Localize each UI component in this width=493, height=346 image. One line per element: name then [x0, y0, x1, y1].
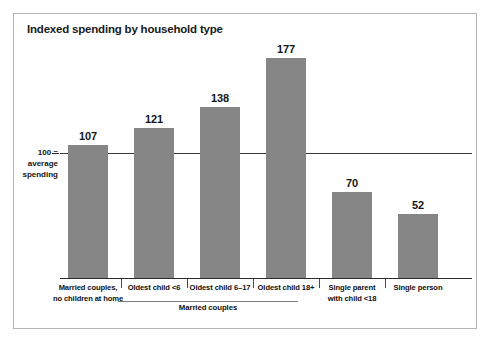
plot-area: 1071211381777052: [60, 35, 471, 279]
bar-value-label: 52: [388, 199, 448, 211]
bar: [134, 128, 174, 279]
bar-value-label: 138: [190, 92, 250, 104]
reference-line-leader: [52, 153, 59, 154]
x-axis-category-label-line: Single person: [375, 283, 461, 294]
x-axis-category-label-line: with child <18: [309, 294, 395, 305]
group-bracket-label: Married couples: [118, 303, 298, 312]
x-axis-category-label: Single person: [375, 283, 461, 294]
bar-value-label: 121: [124, 113, 184, 125]
bar: [68, 145, 108, 279]
bar: [398, 214, 438, 279]
bar-value-label: 107: [58, 130, 118, 142]
bar: [266, 58, 306, 279]
group-bracket-line: [118, 301, 298, 302]
chart-page: Indexed spending by household type 100 =…: [0, 0, 493, 346]
bar-value-label: 70: [322, 177, 382, 189]
bar: [332, 192, 372, 280]
bar: [200, 107, 240, 280]
bar-value-label: 177: [256, 43, 316, 55]
page-title: Indexed spending by household type: [27, 23, 223, 35]
reference-line-label-line-3: spending: [12, 169, 58, 180]
reference-line-label-line-2: average: [12, 158, 58, 169]
